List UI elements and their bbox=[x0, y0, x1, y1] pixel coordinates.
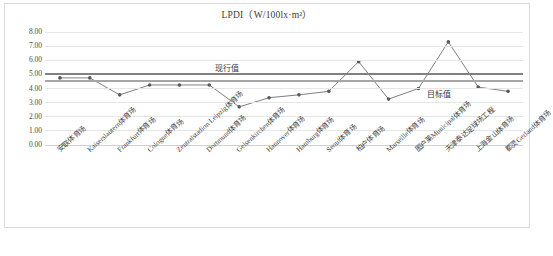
gridline bbox=[45, 60, 523, 61]
data-point-marker bbox=[447, 40, 451, 44]
data-point-marker bbox=[88, 76, 92, 80]
y-axis-tick-label: 8.00 bbox=[2, 28, 42, 36]
data-point-marker bbox=[58, 76, 62, 80]
data-point-marker bbox=[267, 96, 271, 100]
reference-line-label-target: 目标值 bbox=[427, 88, 451, 99]
data-point-marker bbox=[208, 83, 212, 87]
gridline bbox=[45, 32, 523, 33]
data-point-marker bbox=[327, 90, 331, 94]
y-axis-tick-label: 6.00 bbox=[2, 56, 42, 64]
gridline bbox=[45, 102, 523, 103]
y-axis-tick-labels: 8.007.006.005.004.003.002.001.000.00 bbox=[0, 32, 42, 145]
data-point-marker bbox=[118, 93, 122, 97]
y-axis-tick-label: 5.00 bbox=[2, 70, 42, 78]
gridline bbox=[45, 88, 523, 89]
chart-title: LPDI（W/100lx·m²） bbox=[0, 7, 534, 21]
data-point-marker bbox=[237, 105, 241, 109]
y-axis-tick-label: 2.00 bbox=[2, 113, 42, 121]
data-point-marker bbox=[387, 97, 391, 101]
x-axis-category-labels: 安联体育场Kaiserslautern体育场Frankfurt体育场Cologn… bbox=[0, 146, 534, 254]
gridline bbox=[45, 46, 523, 47]
y-axis-tick-label: 4.00 bbox=[2, 85, 42, 93]
reference-line-current bbox=[45, 73, 523, 75]
y-axis-tick-label: 3.00 bbox=[2, 99, 42, 107]
data-point-marker bbox=[148, 83, 152, 87]
y-axis-tick-label: 7.00 bbox=[2, 42, 42, 50]
reference-line-label-current: 现行值 bbox=[215, 62, 239, 73]
data-point-marker bbox=[178, 83, 182, 87]
y-axis-tick-label: 1.00 bbox=[2, 127, 42, 135]
reference-line-target bbox=[45, 80, 523, 82]
chart-title-text: LPDI（W/100lx·m²） bbox=[222, 10, 313, 20]
data-point-marker bbox=[506, 90, 510, 94]
data-point-marker bbox=[297, 93, 301, 97]
